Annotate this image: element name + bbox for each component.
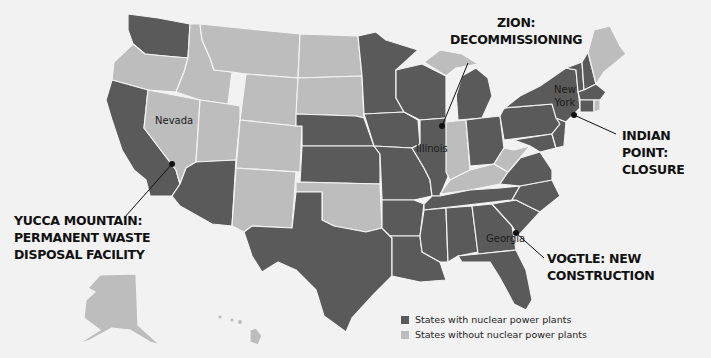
state-maine <box>588 26 626 84</box>
callout-vogtle: VOGTLE: NEW CONSTRUCTION <box>547 250 654 284</box>
callout-indian-point-title: INDIAN POINT: <box>622 127 711 161</box>
state-wyoming <box>240 74 298 126</box>
state-utah <box>196 100 240 162</box>
state-label-nevada: Nevada <box>155 114 193 127</box>
state-new-mexico <box>232 168 296 232</box>
callout-yucca-title: YUCCA MOUNTAIN: <box>14 212 150 229</box>
state-nebraska <box>296 114 374 146</box>
state-arkansas <box>382 200 424 236</box>
state-label-new-york: New York <box>548 83 582 109</box>
callout-vogtle-title: VOGTLE: NEW <box>547 250 654 267</box>
legend-swatch-dark <box>401 316 409 324</box>
state-label-illinois: Illinois <box>416 142 448 155</box>
callout-yucca-status-2: DISPOSAL FACILITY <box>14 246 150 263</box>
state-michigan <box>456 68 492 120</box>
callout-line-indian-point <box>574 115 616 134</box>
state-hawaii <box>250 328 262 345</box>
state-mississippi <box>420 208 448 262</box>
marker-zion <box>439 123 445 129</box>
legend-item-with-nuclear: States with nuclear power plants <box>401 312 587 327</box>
state-south-dakota <box>296 76 364 118</box>
state-connecticut <box>580 100 594 112</box>
callout-indian-point-status: CLOSURE <box>622 161 711 178</box>
legend-label-without-nuclear: States without nuclear power plants <box>415 329 587 340</box>
legend-item-without-nuclear: States without nuclear power plants <box>401 327 587 342</box>
callout-zion-status: DECOMMISSIONING <box>450 31 582 48</box>
state-alaska <box>78 274 160 345</box>
legend-label-with-nuclear: States with nuclear power plants <box>415 314 571 325</box>
state-wisconsin <box>396 64 446 120</box>
state-label-georgia: Georgia <box>486 232 525 245</box>
callout-zion-title: ZION: <box>450 14 582 31</box>
legend: States with nuclear power plants States … <box>401 312 587 342</box>
us-map <box>0 0 711 358</box>
legend-swatch-light <box>401 331 409 339</box>
callout-yucca-mountain: YUCCA MOUNTAIN: PERMANENT WASTE DISPOSAL… <box>14 212 150 263</box>
state-kansas <box>300 146 380 184</box>
state-colorado <box>236 120 302 172</box>
callout-yucca-status-1: PERMANENT WASTE <box>14 229 150 246</box>
state-hawaii-island <box>219 316 222 319</box>
state-label-new-york-text: New York <box>554 84 576 108</box>
callout-vogtle-status: CONSTRUCTION <box>547 267 654 284</box>
state-iowa <box>364 112 420 148</box>
state-hawaii-island <box>238 320 242 324</box>
state-north-dakota <box>298 34 362 78</box>
marker-yucca <box>169 161 175 167</box>
marker-indian-point <box>571 112 577 118</box>
callout-indian-point: INDIAN POINT: CLOSURE <box>622 127 711 178</box>
state-florida <box>458 250 532 310</box>
state-rhode-island <box>594 100 600 112</box>
state-hawaii-island <box>231 319 234 322</box>
callout-zion: ZION: DECOMMISSIONING <box>450 14 582 48</box>
state-montana <box>200 24 300 78</box>
